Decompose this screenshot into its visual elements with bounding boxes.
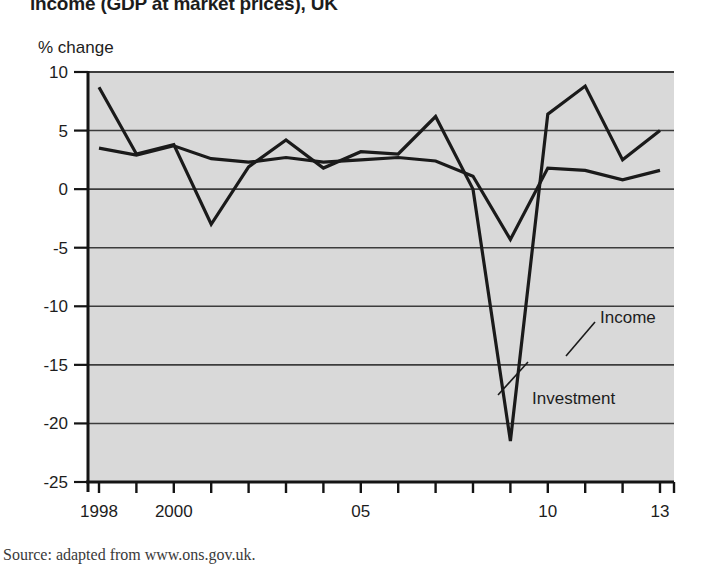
y-tick-label: 0 bbox=[59, 180, 68, 199]
x-tick-label: 2000 bbox=[155, 502, 193, 521]
y-tick-label: 5 bbox=[59, 122, 68, 141]
y-tick-label: -10 bbox=[43, 297, 68, 316]
y-tick-label: 10 bbox=[49, 63, 68, 82]
y-tick-label: -15 bbox=[43, 356, 68, 375]
investment-series-label: Investment bbox=[532, 389, 615, 408]
source-note: Source: adapted from www.ons.gov.uk. bbox=[3, 546, 256, 564]
y-tick-label: -20 bbox=[43, 414, 68, 433]
plot-background bbox=[88, 72, 674, 482]
line-chart: 1050-5-10-15-20-2519982000051013IncomeIn… bbox=[0, 0, 717, 579]
x-tick-label: 10 bbox=[538, 502, 557, 521]
chart-figure: income (GDP at market prices), UK % chan… bbox=[0, 0, 717, 579]
income-series-label: Income bbox=[600, 308, 656, 327]
y-tick-label: -25 bbox=[43, 473, 68, 492]
plot-area-wrapper: 1050-5-10-15-20-2519982000051013IncomeIn… bbox=[0, 0, 717, 579]
x-tick-label: 05 bbox=[351, 502, 370, 521]
y-tick-label: -5 bbox=[53, 239, 68, 258]
x-tick-label: 13 bbox=[651, 502, 670, 521]
x-tick-label: 1998 bbox=[80, 502, 118, 521]
